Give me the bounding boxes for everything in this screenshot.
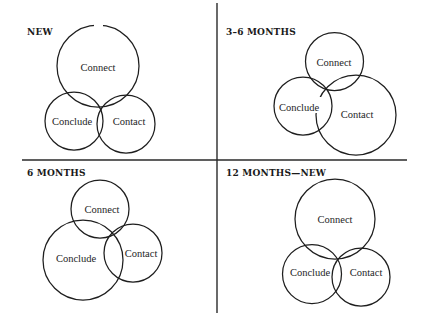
- panel-3-6-months: Connect Conclude Contact: [274, 33, 396, 156]
- venn-quadrant-diagram: Connect Conclude Contact Connect Conclud…: [0, 0, 428, 326]
- panel-6-months: Connect Conclude Contact: [43, 180, 162, 300]
- connect-label: Connect: [317, 57, 352, 68]
- contact-label: Contact: [113, 116, 146, 127]
- panel-12-months-new: Connect Conclude Contact: [283, 179, 391, 306]
- diagram-canvas: Connect Conclude Contact Connect Conclud…: [0, 0, 428, 326]
- contact-label: Contact: [341, 109, 374, 120]
- panel-title-new: NEW: [27, 27, 53, 37]
- conclude-label: Conclude: [290, 267, 331, 278]
- conclude-label: Conclude: [52, 116, 93, 127]
- panel-title-6-months: 6 MONTHS: [27, 168, 86, 178]
- conclude-label: Conclude: [56, 253, 97, 264]
- contact-label: Contact: [350, 267, 383, 278]
- contact-label: Contact: [125, 248, 158, 259]
- arc-gap: [94, 22, 103, 28]
- panel-title-3-6-months: 3–6 MONTHS: [226, 27, 296, 37]
- panel-title-12-months-new: 12 MONTHS—NEW: [226, 168, 326, 178]
- panel-new: Connect Conclude Contact: [45, 22, 155, 153]
- connect-label: Connect: [85, 204, 120, 215]
- conclude-label: Conclude: [279, 102, 320, 113]
- connect-label: Connect: [318, 214, 353, 225]
- connect-label: Connect: [81, 62, 116, 73]
